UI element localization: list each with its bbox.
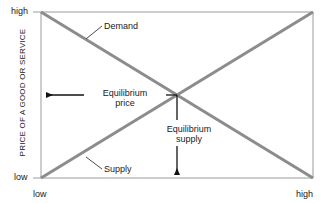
supply-leader-line [86, 157, 102, 169]
demand-curve-label: Demand [104, 21, 138, 31]
y-axis-low-label: low [14, 172, 28, 182]
supply-demand-figure: PRICE OF A GOOD OR SERVICE high low low … [0, 0, 329, 203]
equilibrium-price-label-line1: Equilibrium [103, 88, 148, 98]
x-axis-low-label: low [33, 189, 47, 199]
equilibrium-supply-label-line2: supply [176, 134, 202, 144]
demand-leader-line [86, 26, 102, 39]
equilibrium-supply-label: Equilibrium supply [155, 124, 223, 144]
chart-canvas [0, 0, 329, 203]
supply-curve-label: Supply [104, 164, 132, 174]
equilibrium-supply-label-line1: Equilibrium [167, 124, 212, 134]
y-axis-high-label: high [11, 6, 28, 16]
y-axis-title: PRICE OF A GOOD OR SERVICE [18, 23, 27, 163]
x-axis-high-label: high [296, 189, 313, 199]
equilibrium-price-label: Equilibrium price [86, 88, 164, 108]
equilibrium-price-label-line2: price [115, 98, 135, 108]
